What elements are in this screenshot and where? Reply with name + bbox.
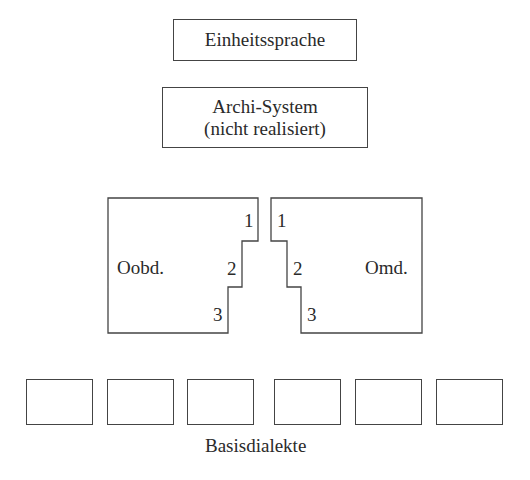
base-dialect-box-4: [274, 379, 341, 425]
base-dialect-box-3: [187, 379, 254, 425]
oobd-label: Oobd.: [117, 258, 164, 278]
base-dialect-box-1: [26, 379, 93, 425]
base-dialect-box-6: [436, 379, 503, 425]
omd-label: Omd.: [365, 258, 408, 278]
base-dialect-box-5: [355, 379, 422, 425]
left-step-3: 3: [213, 305, 223, 325]
right-step-3: 3: [307, 305, 317, 325]
right-step-2: 2: [293, 259, 303, 279]
base-dialect-box-2: [107, 379, 174, 425]
basisdialekte-label: Basisdialekte: [205, 436, 306, 456]
left-step-2: 2: [227, 259, 237, 279]
left-step-1: 1: [244, 211, 254, 231]
right-step-1: 1: [277, 211, 287, 231]
